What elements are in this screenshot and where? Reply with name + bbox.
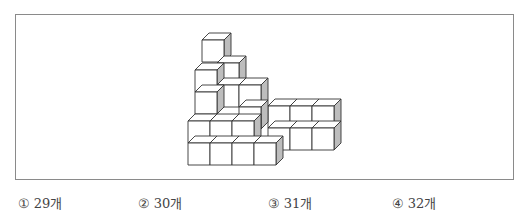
choice-4[interactable]: ④32개	[392, 193, 436, 212]
choice-number: ①	[18, 196, 30, 211]
choice-label: 30개	[154, 196, 182, 211]
unit-cube	[254, 136, 283, 165]
choice-1[interactable]: ①29개	[18, 193, 62, 212]
unit-cube	[312, 121, 341, 150]
choice-number: ②	[138, 196, 150, 211]
answer-choices: ①29개 ②30개 ③31개 ④32개	[0, 193, 522, 213]
choice-2[interactable]: ②30개	[138, 193, 182, 212]
choice-number: ③	[268, 196, 280, 211]
choice-label: 29개	[34, 196, 62, 211]
choice-3[interactable]: ③31개	[268, 193, 312, 212]
choice-number: ④	[392, 196, 404, 211]
stacked-cubes-figure	[0, 0, 522, 220]
choice-label: 31개	[284, 196, 312, 211]
choice-label: 32개	[408, 196, 436, 211]
unit-cube	[195, 85, 224, 114]
